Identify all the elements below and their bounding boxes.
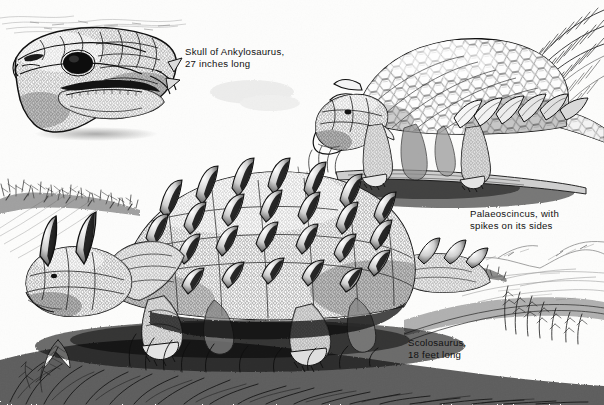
caption-scolosaurus: Scolosaurus, 18 feet long (408, 337, 466, 360)
illustration-plate: Skull of Ankylosaurus, 27 inches long Pa… (0, 0, 604, 405)
caption-palaeoscincus: Palaeoscincus, with spikes on its sides (470, 208, 559, 231)
caption-skull-of-ankylosaurus: Skull of Ankylosaurus, 27 inches long (185, 46, 284, 69)
figure-scolosaurus (0, 0, 604, 405)
